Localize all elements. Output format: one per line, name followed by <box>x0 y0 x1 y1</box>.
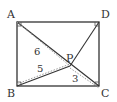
label-d: D <box>101 8 110 21</box>
label-a: A <box>6 8 16 21</box>
label-c: C <box>101 87 109 100</box>
geometry-diagram: A D B C P 6 5 3 <box>0 0 117 102</box>
dotted-pa <box>17 22 70 66</box>
length-pb: 5 <box>37 63 43 74</box>
length-pc: 3 <box>72 73 78 84</box>
label-p: P <box>66 52 74 65</box>
length-pa: 6 <box>34 46 40 57</box>
segment-pb <box>17 66 70 86</box>
dotted-pb <box>17 64 70 84</box>
segment-pd <box>70 22 99 66</box>
label-b: B <box>7 87 15 100</box>
